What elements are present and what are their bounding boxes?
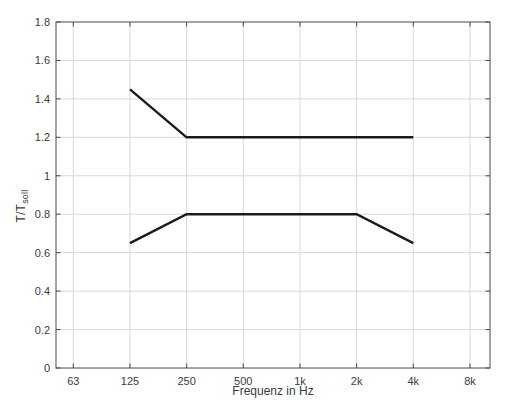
y-tick-label-1: 1 bbox=[44, 170, 50, 182]
y-tick-label-0.6: 0.6 bbox=[35, 247, 50, 259]
y-axis-label-main: T/T bbox=[14, 204, 28, 223]
chart-canvas: 631252505001k2k4k8k00.20.40.60.811.21.41… bbox=[0, 0, 507, 413]
y-tick-label-1.2: 1.2 bbox=[35, 131, 50, 143]
reverberation-tolerance-chart: 631252505001k2k4k8k00.20.40.60.811.21.41… bbox=[0, 0, 507, 413]
y-tick-label-1.8: 1.8 bbox=[35, 16, 50, 28]
series-line-upper-tolerance-limit bbox=[130, 89, 413, 137]
y-tick-label-1.6: 1.6 bbox=[35, 54, 50, 66]
y-tick-label-0.4: 0.4 bbox=[35, 285, 50, 297]
y-tick-label-0.2: 0.2 bbox=[35, 324, 50, 336]
y-tick-label-0.8: 0.8 bbox=[35, 208, 50, 220]
plot-border bbox=[56, 22, 490, 368]
x-axis-label: Frequenz in Hz bbox=[56, 384, 490, 398]
y-axis-label: T/Tsoll bbox=[14, 190, 30, 223]
series-line-lower-tolerance-limit bbox=[130, 214, 413, 243]
y-tick-label-1.4: 1.4 bbox=[35, 93, 50, 105]
y-tick-label-0: 0 bbox=[44, 362, 50, 374]
y-axis-label-subscript: soll bbox=[20, 190, 30, 204]
